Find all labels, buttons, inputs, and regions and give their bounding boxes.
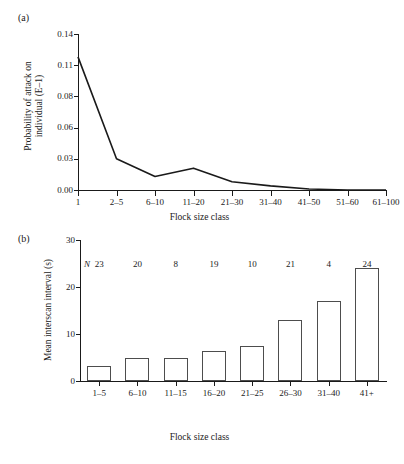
panel-b-x-tick [176, 382, 177, 386]
panel-a-data-line [0, 0, 399, 232]
panel-b-x-tick [290, 382, 291, 386]
panel-a-plot: 0.000.030.060.080.110.1412–56–1011–2021–… [0, 0, 399, 232]
panel-b-y-tick [76, 381, 81, 382]
panel-b-y-tick-label: 20 [46, 283, 75, 292]
panel-b-x-tick [137, 382, 138, 386]
bar-8[interactable] [355, 268, 379, 381]
panel-b-plot: 0102030N1–5236–102011–15816–201921–25102… [0, 232, 399, 464]
bar-4[interactable] [202, 351, 226, 381]
panel-a-x-axis-title: Flock size class [0, 212, 399, 222]
n-value-5: 10 [234, 260, 270, 269]
n-value-2: 20 [119, 260, 155, 269]
panel-b-y-tick [76, 334, 81, 335]
panel-b-y-tick-label: 0 [46, 377, 75, 386]
panel-b-x-axis-title: Flock size class [0, 432, 399, 442]
panel-b-x-tick [214, 382, 215, 386]
panel-b-x-tick [252, 382, 253, 386]
n-value-4: 19 [196, 260, 232, 269]
bar-3[interactable] [164, 358, 188, 381]
panel-b-x-tick-label: 41+ [343, 389, 391, 398]
panel-b-y-tick [76, 240, 81, 241]
panel-b-x-tick [99, 382, 100, 386]
n-value-6: 21 [272, 260, 308, 269]
bar-7[interactable] [317, 301, 341, 381]
bar-2[interactable] [125, 358, 149, 382]
panel-b-y-tick-label: 30 [46, 236, 75, 245]
n-value-1: 23 [81, 260, 117, 269]
bar-5[interactable] [240, 346, 264, 381]
n-value-7: 4 [311, 260, 347, 269]
panel-b-y-tick-label: 10 [46, 330, 75, 339]
panel-b-x-tick [367, 382, 368, 386]
bar-1[interactable] [87, 366, 111, 381]
bar-6[interactable] [278, 320, 302, 381]
n-value-3: 8 [158, 260, 194, 269]
panel-b-x-tick [329, 382, 330, 386]
panel-b-x-axis [80, 381, 387, 382]
n-value-8: 24 [349, 260, 385, 269]
panel-b-y-tick [76, 287, 81, 288]
